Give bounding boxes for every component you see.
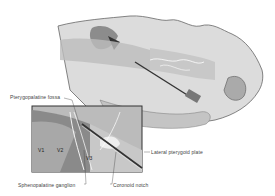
label-v1: V1: [38, 147, 44, 153]
label-v2: V2: [57, 147, 63, 153]
label-sphenopalatine-ganglion: Sphenopalatine ganglion: [18, 182, 75, 188]
inset-panel: [32, 106, 142, 172]
label-pterygopalatine-fossa: Pterygopalatine fossa: [10, 94, 60, 100]
label-coronoid-notch: Coronoid notch: [113, 182, 148, 188]
label-v3: V3: [86, 155, 92, 161]
label-lateral-pterygoid-plate: Lateral pterygoid plate: [151, 149, 203, 155]
